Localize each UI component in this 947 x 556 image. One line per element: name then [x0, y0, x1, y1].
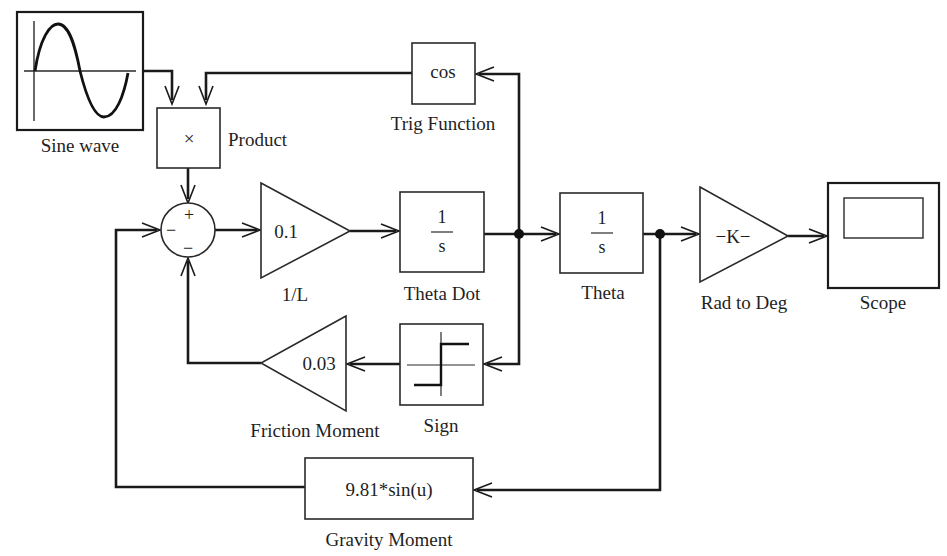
junction-dot-thetadot	[514, 229, 524, 239]
rad-to-deg-value: −K−	[715, 226, 750, 247]
sum-sign-top: +	[184, 205, 194, 225]
gain-1l-label: 1/L	[282, 284, 308, 305]
theta-dot-denominator: s	[438, 236, 445, 256]
friction-moment-value: 0.03	[302, 353, 335, 374]
wire-junction-to-cos	[479, 74, 519, 234]
block-sine-wave[interactable]: Sine wave	[17, 12, 143, 156]
theta-dot-label: Theta Dot	[404, 283, 481, 304]
product-symbol: ×	[184, 128, 195, 149]
friction-moment-label: Friction Moment	[250, 420, 380, 441]
theta-numerator: 1	[598, 208, 607, 228]
sum-sign-bottom: −	[183, 238, 193, 258]
block-friction-moment[interactable]: 0.03 Friction Moment	[250, 316, 380, 441]
block-diagram: Sine wave × Product + − − 0.1 1/L 1 s Th…	[0, 0, 947, 556]
sign-label: Sign	[424, 415, 459, 436]
wire-junction-to-sign	[487, 234, 519, 364]
wire-friction-to-sum	[188, 261, 261, 363]
block-gain-1-over-l[interactable]: 0.1 1/L	[261, 183, 350, 305]
block-sign[interactable]: Sign	[400, 324, 483, 436]
block-theta-dot[interactable]: 1 s Theta Dot	[400, 192, 484, 304]
scope-label: Scope	[860, 292, 906, 313]
scope-screen-icon	[844, 198, 923, 238]
block-scope[interactable]: Scope	[828, 183, 939, 313]
block-trig-function[interactable]: cos Trig Function	[391, 43, 496, 134]
rad-to-deg-label: Rad to Deg	[701, 292, 788, 313]
block-gravity-moment[interactable]: 9.81*sin(u) Gravity Moment	[305, 458, 473, 550]
block-product[interactable]: × Product	[157, 108, 288, 168]
block-sum[interactable]: + − −	[161, 203, 215, 258]
wire-sine-to-product	[143, 71, 172, 100]
theta-label: Theta	[581, 282, 625, 303]
sine-wave-label: Sine wave	[41, 135, 120, 156]
theta-dot-numerator: 1	[438, 207, 447, 227]
trig-function-value: cos	[430, 61, 455, 82]
gravity-moment-label: Gravity Moment	[325, 529, 453, 550]
gravity-moment-value: 9.81*sin(u)	[345, 479, 432, 501]
junction-dot-theta	[655, 229, 665, 239]
sum-sign-left: −	[166, 220, 176, 240]
block-theta[interactable]: 1 s Theta	[560, 193, 643, 303]
block-rad-to-deg[interactable]: −K− Rad to Deg	[700, 187, 788, 313]
trig-function-label: Trig Function	[391, 113, 496, 134]
gain-1l-value: 0.1	[274, 221, 298, 242]
product-label: Product	[228, 129, 288, 150]
wire-cos-to-product	[206, 73, 412, 100]
theta-denominator: s	[598, 237, 605, 257]
